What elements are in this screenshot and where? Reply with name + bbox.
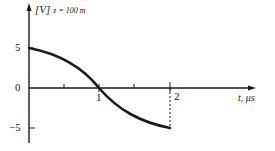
y-tick-label-neg5: −5 [9,122,21,133]
y-axis-label: [V]z = 100 m [35,4,86,15]
x-axis-label: t, μs [238,93,255,103]
x-tick-label-1: 1 [96,92,102,103]
y-tick-label-5: 5 [15,42,21,53]
y-axis-arrow-icon [27,3,32,11]
chart-canvas [0,0,275,151]
y-axis-label-sub: z = 100 m [53,6,85,15]
x-axis-arrow-icon [248,86,256,91]
y-axis-label-main: [V] [35,3,50,15]
x-tick-label-2: 2 [174,91,180,102]
y-tick-label-0: 0 [15,82,21,93]
